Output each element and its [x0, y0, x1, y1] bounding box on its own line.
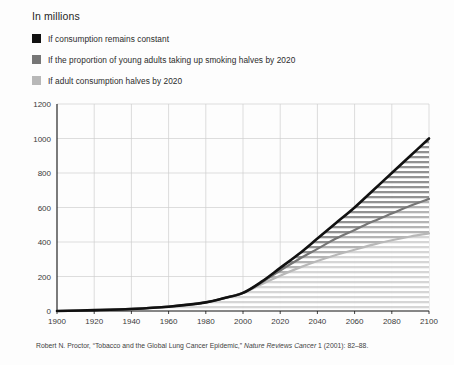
svg-text:2080: 2080 — [383, 317, 401, 326]
svg-text:1920: 1920 — [85, 317, 103, 326]
svg-text:2020: 2020 — [271, 317, 289, 326]
chart-svg: 020040060080010001200 190019201940196019… — [0, 96, 454, 326]
x-tick-labels: 1900192019401960198020002020204020602080… — [48, 317, 438, 326]
source-suffix: 1 (2001): 82–88. — [316, 342, 368, 349]
svg-text:1980: 1980 — [197, 317, 215, 326]
source-citation: Robert N. Proctor, “Tobacco and the Glob… — [36, 342, 368, 349]
svg-text:600: 600 — [38, 204, 52, 213]
legend-label-constant: If consumption remains constant — [48, 34, 169, 44]
svg-text:800: 800 — [38, 169, 52, 178]
legend-swatch-constant — [32, 34, 41, 43]
svg-text:1960: 1960 — [160, 317, 178, 326]
source-prefix: Robert N. Proctor, “Tobacco and the Glob… — [36, 342, 244, 349]
legend-item: If the proportion of young adults taking… — [32, 51, 432, 68]
legend-swatch-adult-halves — [32, 76, 41, 85]
source-journal: Nature Reviews Cancer — [244, 342, 316, 349]
svg-text:2040: 2040 — [309, 317, 327, 326]
svg-text:2060: 2060 — [346, 317, 364, 326]
y-tick-labels: 020040060080010001200 — [33, 100, 51, 316]
plot-area: 020040060080010001200 190019201940196019… — [0, 96, 454, 326]
svg-text:2000: 2000 — [234, 317, 252, 326]
svg-text:400: 400 — [38, 238, 52, 247]
legend-label-youth-halves: If the proportion of young adults taking… — [48, 55, 295, 65]
legend-item: If adult consumption halves by 2020 — [32, 72, 432, 89]
svg-text:1200: 1200 — [33, 100, 51, 109]
units-label: In millions — [32, 10, 432, 22]
chart-figure: In millions If consumption remains const… — [0, 0, 454, 365]
svg-text:1900: 1900 — [48, 317, 66, 326]
legend-label-adult-halves: If adult consumption halves by 2020 — [48, 76, 182, 86]
legend-item: If consumption remains constant — [32, 30, 432, 47]
svg-text:1940: 1940 — [123, 317, 141, 326]
svg-text:0: 0 — [47, 307, 52, 316]
legend-swatch-youth-halves — [32, 55, 41, 64]
svg-text:1000: 1000 — [33, 135, 51, 144]
svg-text:200: 200 — [38, 273, 52, 282]
svg-text:2100: 2100 — [420, 317, 438, 326]
chart-legend: In millions If consumption remains const… — [32, 10, 432, 93]
